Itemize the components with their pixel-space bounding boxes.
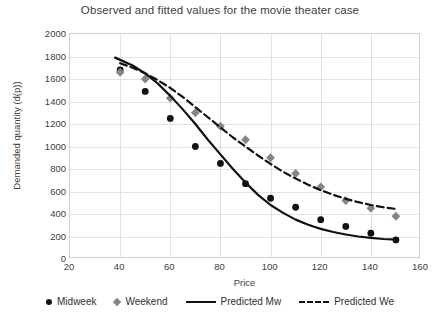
chart-title: Observed and fitted values for the movie… [0,4,440,16]
diamond-marker-icon [113,297,121,305]
y-axis-tick-label: 200 [18,230,66,241]
data-series-layer [70,34,421,259]
legend-item-label: Midweek [57,296,96,307]
y-axis-tick-label: 800 [18,163,66,174]
circle-marker-icon [46,299,52,305]
legend-item-label: Predicted Mw [221,296,282,307]
data-point-midweek [267,195,274,202]
data-point-weekend [392,212,401,221]
legend-item-label: Weekend [125,296,167,307]
data-point-weekend [291,169,300,178]
data-point-midweek [292,204,299,211]
legend-item-predicted-mw[interactable]: Predicted Mw [186,296,282,307]
dashed-line-icon [299,301,329,303]
x-axis-tick-label: 100 [250,261,290,272]
legend-item-midweek[interactable]: Midweek [46,296,96,307]
data-point-midweek [142,88,149,95]
legend-item-label: Predicted We [334,296,394,307]
x-axis-tick-label: 160 [400,261,440,272]
x-axis-tick-label: 20 [49,261,89,272]
solid-line-icon [186,301,216,303]
chart-container: Observed and fitted values for the movie… [0,0,440,324]
data-point-midweek [367,230,374,237]
x-axis-tick-label: 120 [300,261,340,272]
data-point-midweek [342,223,349,230]
data-point-weekend [241,135,250,144]
chart-legend: MidweekWeekendPredicted MwPredicted We [0,296,440,307]
y-axis-tick-label: 1200 [18,118,66,129]
y-axis-tick-label: 1800 [18,50,66,61]
y-axis-tick-label: 1600 [18,73,66,84]
y-axis-tick-label: 400 [18,208,66,219]
y-axis-tick-label: 1000 [18,140,66,151]
y-axis-tick-label: 1400 [18,95,66,106]
series-line-predicted-mw [115,58,396,240]
legend-item-weekend[interactable]: Weekend [114,296,167,307]
x-axis-tick-label: 60 [149,261,189,272]
y-axis-tick-label: 2000 [18,28,66,39]
series-line-predicted-we [120,63,396,209]
x-axis-tick-label: 80 [199,261,239,272]
y-axis-tick-label: 600 [18,185,66,196]
x-axis-tick-label: 140 [350,261,390,272]
x-axis-tick-label: 40 [99,261,139,272]
data-point-midweek [217,160,224,167]
plot-area [69,33,420,258]
data-point-midweek [192,143,199,150]
data-point-midweek [317,216,324,223]
legend-item-predicted-we[interactable]: Predicted We [299,296,394,307]
data-point-midweek [167,115,174,122]
x-axis-label: Price [69,277,420,288]
